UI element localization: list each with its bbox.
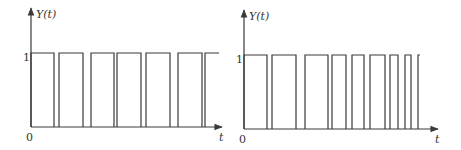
- x-axis-label: t: [435, 133, 440, 146]
- x-axis-label: t: [219, 131, 224, 144]
- y-axis-label: Y(t): [249, 10, 269, 23]
- pulse-chart-left: Y(t) t 0 1: [23, 8, 224, 144]
- origin-label: 0: [26, 131, 33, 144]
- y-tick-one: 1: [23, 51, 30, 64]
- chart-canvas: Y(t) t 0 1 Y(t) t 0 1: [0, 0, 461, 150]
- y-tick-one: 1: [236, 53, 243, 66]
- pulse-train: [244, 55, 420, 129]
- y-axis-label: Y(t): [36, 8, 56, 21]
- pulse-chart-right: Y(t) t 0 1: [236, 10, 440, 146]
- pulse-train: [31, 53, 219, 127]
- origin-label: 0: [239, 133, 246, 146]
